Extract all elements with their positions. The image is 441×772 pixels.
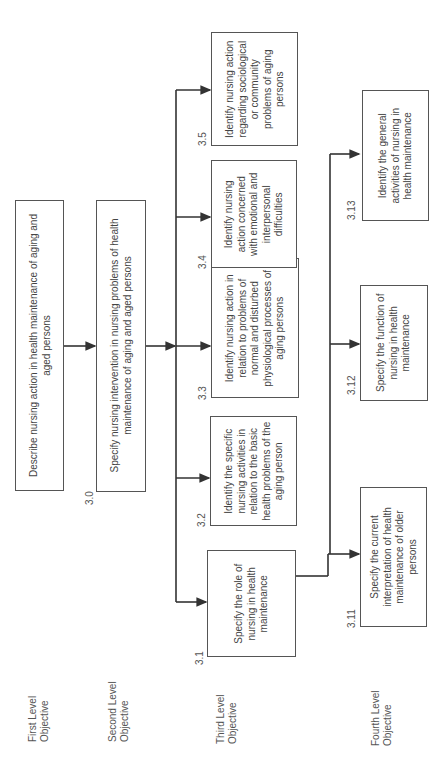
fourth-level-box-3-13: Identify the general activities of nursi… <box>362 90 429 221</box>
third-level-box-3-3: Identify nursing action in relation to p… <box>211 258 299 398</box>
objective-number-3-2: 3.2 <box>196 513 207 527</box>
second-level-objective-text: Specify nursing intervention in nursing … <box>109 211 134 481</box>
level-label-line: Objective <box>382 690 394 746</box>
objective-number-3-11: 3.11 <box>346 609 357 628</box>
level-label-fourth: Fourth Level Objective <box>370 690 394 746</box>
level-label-first: First Level Objective <box>27 696 51 742</box>
fourth-level-text-3-12: Specify the function of nursing in healt… <box>375 291 413 395</box>
fourth-level-box-3-11: Specify the current interpretation of he… <box>360 487 427 627</box>
objective-number-3-1: 3.1 <box>194 651 205 665</box>
third-level-box-3-1: Specify the role of nursing in health ma… <box>207 550 296 657</box>
level-label-line: Objective <box>119 681 131 742</box>
first-level-objective-box: Describe nursing action in health mainte… <box>15 200 64 491</box>
first-level-objective-text: Describe nursing action in health mainte… <box>27 210 52 480</box>
level-label-second: Second Level Objective <box>107 681 131 742</box>
level-label-third: Third Level Objective <box>215 695 239 744</box>
level-label-line: Objective <box>227 695 239 744</box>
third-level-text-3-5: Identify nursing action regarding sociol… <box>223 39 286 139</box>
third-level-text-3-4: Identify nursing action concerned with e… <box>223 166 286 262</box>
level-label-line: Objective <box>39 696 51 742</box>
fourth-level-text-3-11: Specify the current interpretation of he… <box>369 495 419 619</box>
objective-number-3-4: 3.4 <box>197 255 208 269</box>
level-label-line: Second Level <box>107 681 119 742</box>
third-level-text-3-1: Specify the role of nursing in health ma… <box>233 555 271 651</box>
objective-number-3-13: 3.13 <box>346 201 357 220</box>
level-label-line: Third Level <box>215 695 227 744</box>
objective-number-3-0: 3.0 <box>84 491 95 505</box>
third-level-text-3-2: Identify the specific nursing activities… <box>222 421 285 521</box>
second-level-objective-box: Specify nursing intervention in nursing … <box>96 200 146 492</box>
level-label-line: Fourth Level <box>370 690 382 746</box>
third-level-box-3-4: Identify nursing action concerned with e… <box>211 160 297 268</box>
third-level-box-3-2: Identify the specific nursing activities… <box>210 416 297 526</box>
third-level-box-3-5: Identify nursing action regarding sociol… <box>211 32 298 146</box>
objective-number-3-12: 3.12 <box>346 376 357 395</box>
objective-number-3-5: 3.5 <box>197 132 208 146</box>
fourth-level-box-3-12: Specify the function of nursing in healt… <box>360 285 428 401</box>
fourth-level-text-3-13: Identify the general activities of nursi… <box>377 96 415 214</box>
third-level-text-3-3: Identify nursing action in relation to p… <box>224 266 287 390</box>
level-label-line: First Level <box>27 696 39 742</box>
objective-number-3-3: 3.3 <box>197 386 208 400</box>
